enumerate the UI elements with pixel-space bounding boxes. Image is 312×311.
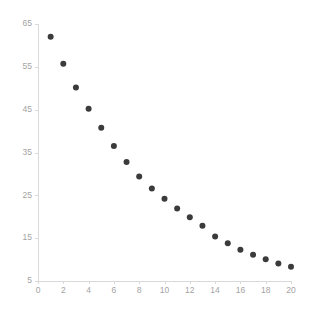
data-point	[250, 252, 256, 258]
data-point	[187, 214, 193, 220]
data-point	[212, 233, 218, 239]
data-point	[48, 34, 54, 40]
data-point	[98, 125, 104, 131]
data-point-group	[48, 34, 294, 270]
data-point	[73, 84, 79, 90]
data-point	[225, 240, 231, 246]
x-tick-label: 18	[261, 285, 271, 295]
data-point	[149, 185, 155, 191]
x-tick-label: 6	[112, 285, 117, 295]
x-tick-label: 12	[185, 285, 195, 295]
y-tick-label: 45	[23, 104, 33, 114]
x-axis: 02468101214161820	[36, 281, 296, 295]
y-tick-label: 15	[23, 232, 33, 242]
data-point	[275, 260, 281, 266]
data-point	[174, 206, 180, 212]
x-tick-label: 16	[236, 285, 246, 295]
data-point	[288, 264, 294, 270]
data-point	[162, 196, 168, 202]
x-tick-label: 8	[137, 285, 142, 295]
y-tick-label: 65	[23, 18, 33, 28]
data-point	[60, 61, 66, 67]
data-point	[86, 106, 92, 112]
x-tick-label: 2	[61, 285, 66, 295]
data-point	[237, 247, 243, 253]
y-tick-label: 5	[27, 275, 32, 285]
y-tick-label: 25	[23, 190, 33, 200]
data-point	[136, 173, 142, 179]
x-tick-label: 20	[286, 285, 296, 295]
data-point	[111, 143, 117, 149]
y-axis: 5152535455565	[23, 18, 39, 285]
data-point	[263, 256, 269, 262]
data-point	[124, 159, 130, 165]
y-tick-group: 5152535455565	[23, 18, 38, 285]
x-tick-label: 10	[160, 285, 170, 295]
x-tick-group: 02468101214161820	[36, 281, 296, 295]
plot-area: 5152535455565 02468101214161820	[0, 0, 312, 311]
data-point	[199, 223, 205, 229]
x-tick-label: 4	[86, 285, 91, 295]
x-tick-label: 0	[36, 285, 41, 295]
x-tick-label: 14	[210, 285, 220, 295]
y-tick-label: 35	[23, 147, 33, 157]
scatter-chart: 5152535455565 02468101214161820	[0, 0, 312, 311]
y-tick-label: 55	[23, 61, 33, 71]
